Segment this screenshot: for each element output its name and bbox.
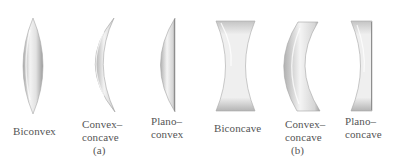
label-line: Plano–	[345, 115, 382, 128]
biconvex-lens-icon	[23, 18, 43, 114]
label-line: Convex–	[82, 118, 122, 131]
convex-concave-a-lens-icon	[95, 18, 115, 112]
label-convex-concave-a: Convex– concave	[82, 118, 122, 143]
lens-illustrations	[0, 0, 396, 159]
label-plano-convex: Plano– convex	[151, 115, 183, 140]
label-line: Plano–	[151, 115, 183, 128]
label-plano-concave: Plano– concave	[345, 115, 382, 140]
caption-b: (b)	[291, 144, 304, 157]
label-line: concave	[285, 131, 325, 144]
plano-convex-lens-icon	[161, 18, 176, 112]
label-line: Biconvex	[13, 125, 56, 138]
label-line: convex	[151, 128, 183, 141]
label-biconvex: Biconvex	[13, 125, 56, 138]
label-line: concave	[345, 128, 382, 141]
label-line: concave	[82, 131, 122, 144]
label-biconcave: Biconcave	[214, 122, 261, 135]
label-line: Convex–	[285, 118, 325, 131]
plano-concave-lens-icon	[351, 21, 372, 111]
caption-a: (a)	[93, 144, 106, 157]
label-convex-concave-b: Convex– concave	[285, 118, 325, 143]
convex-concave-b-lens-icon	[284, 22, 320, 111]
lens-types-figure: Biconvex Convex– concave Plano– convex (…	[0, 0, 396, 159]
biconcave-lens-icon	[216, 21, 255, 111]
label-line: Biconcave	[214, 122, 261, 135]
